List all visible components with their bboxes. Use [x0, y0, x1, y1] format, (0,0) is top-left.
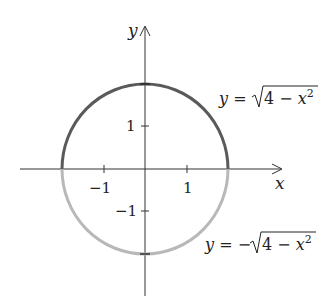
lower-eq-var: x	[296, 235, 305, 254]
upper-eq-radicand: 4 −	[264, 89, 298, 108]
svg-text:4 − x2: 4 − x2	[264, 87, 314, 108]
svg-text:4 − x2: 4 − x2	[262, 233, 312, 254]
svg-text:y =: y =	[218, 89, 247, 108]
x-tick-label-pos1: 1	[183, 179, 193, 197]
lower-equation: y = − 4 − x2	[204, 232, 316, 254]
y-tick-label-pos1: 1	[126, 117, 136, 135]
lower-eq-radicand: 4 −	[262, 235, 296, 254]
y-axis-label: y	[127, 20, 138, 40]
upper-eq-equals: =	[228, 89, 247, 108]
y-tick-label-neg1: −1	[115, 202, 137, 220]
upper-eq-var: x	[298, 89, 307, 108]
upper-equation: y = 4 − x2	[218, 86, 318, 108]
lower-eq-equals: = −	[214, 235, 251, 254]
lower-eq-exp: 2	[305, 233, 312, 246]
axes	[20, 26, 282, 296]
x-tick-label-neg1: −1	[89, 179, 111, 197]
upper-eq-exp: 2	[307, 87, 314, 100]
svg-text:y = −: y = −	[204, 235, 251, 254]
circle-diagram: y x −1 1 1 −1 y = 4 − x2 y = − 4 − x2	[0, 0, 322, 307]
x-axis-label: x	[275, 173, 285, 193]
